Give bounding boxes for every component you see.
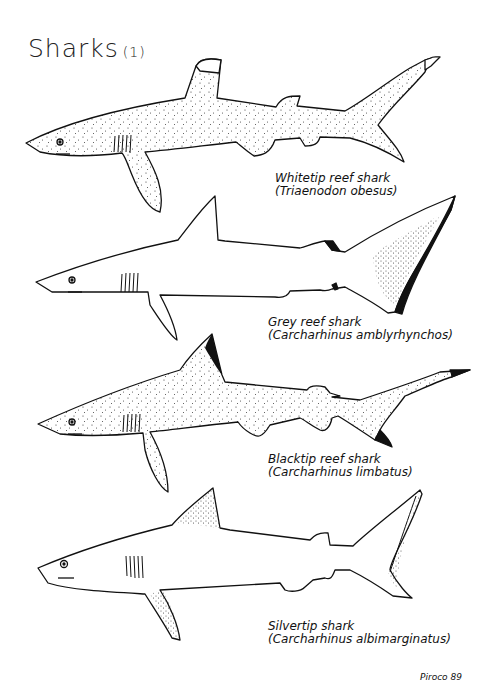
common-name: Silvertip shark	[268, 619, 354, 633]
scientific-name: (Carcharhinus amblyrhynchos)	[268, 329, 453, 342]
shark-label-blacktip: Blacktip reef shark (Carcharhinus limbat…	[268, 453, 413, 479]
scientific-name: (Carcharhinus albimarginatus)	[268, 633, 451, 646]
common-name: Grey reef shark	[268, 315, 361, 329]
shark-label-silvertip: Silvertip shark (Carcharhinus albimargin…	[268, 620, 451, 646]
artist-signature: Piroco 89	[420, 672, 462, 682]
shark-illustrations	[0, 0, 494, 690]
shark-label-whitetip: Whitetip reef shark (Triaenodon obesus)	[275, 172, 398, 198]
scientific-name: (Carcharhinus limbatus)	[268, 466, 413, 479]
common-name: Whitetip reef shark	[275, 171, 390, 185]
scientific-name: (Triaenodon obesus)	[275, 185, 398, 198]
common-name: Blacktip reef shark	[268, 452, 381, 466]
illustration-page: Sharks(1)	[0, 0, 494, 690]
shark-label-grey-reef: Grey reef shark (Carcharhinus amblyrhync…	[268, 316, 453, 342]
silvertip-shark-drawing	[38, 488, 422, 640]
